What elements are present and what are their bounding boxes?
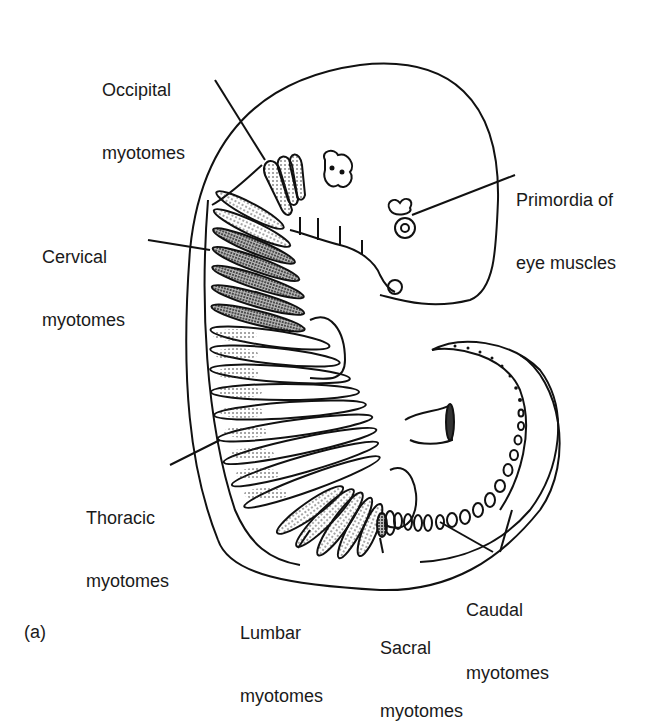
label-caudal: Caudal myotomes	[466, 558, 549, 705]
label-thoracic: Thoracic myotomes	[86, 466, 169, 613]
leader-occipital	[215, 80, 265, 160]
leader-cervical	[148, 240, 210, 250]
thoracic-myotomes	[209, 322, 382, 514]
leader-sacral	[380, 538, 383, 553]
label-cervical: Cervical myotomes	[42, 205, 125, 352]
embryo-outline	[186, 64, 498, 540]
label-eye-muscles: Primordia of eye muscles	[516, 148, 616, 295]
leader-caudal-1	[440, 522, 493, 552]
label-sacral: Sacral myotomes	[380, 596, 463, 725]
label-lumbar: Lumbar myotomes	[240, 581, 323, 725]
lumbar-myotomes	[273, 481, 387, 562]
leader-eye	[412, 175, 515, 215]
sacral-myotomes	[377, 511, 395, 537]
otic-region	[324, 151, 352, 187]
label-occipital: Occipital myotomes	[102, 38, 185, 185]
panel-label: (a)	[24, 622, 46, 643]
eye-primordia	[389, 199, 415, 238]
